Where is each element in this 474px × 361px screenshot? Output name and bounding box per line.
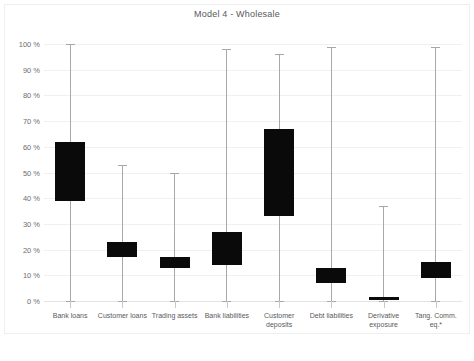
y-axis-tick-label: 40 % (6, 194, 40, 203)
whisker-cap-top (431, 47, 440, 48)
x-axis-tick (122, 301, 123, 308)
y-axis-tick-label: 70 % (6, 117, 40, 126)
whisker-cap-top (118, 165, 127, 166)
bar-group (410, 44, 462, 301)
range-box (421, 262, 451, 277)
bar-group (201, 44, 253, 301)
range-box (55, 142, 85, 201)
whisker-line (383, 206, 384, 301)
bar-group (44, 44, 96, 301)
bar-group (253, 44, 305, 301)
y-axis-tick-label: 10 % (6, 271, 40, 280)
x-axis-tick (331, 301, 332, 308)
bar-group (96, 44, 148, 301)
range-box (107, 242, 137, 257)
x-axis-tick-label: Trading assets (149, 311, 201, 320)
whisker-line (174, 173, 175, 302)
range-box (316, 268, 346, 283)
x-axis-tick-label: Debt liabilities (305, 311, 357, 320)
whisker-line (331, 47, 332, 301)
y-axis-tick-label: 60 % (6, 142, 40, 151)
x-axis-tick-label: Tang. Comm. eq.* (410, 311, 462, 329)
whisker-cap-top (379, 206, 388, 207)
range-box (212, 232, 242, 265)
bar-group (358, 44, 410, 301)
whisker-cap-top (66, 44, 75, 45)
whisker-cap-top (275, 54, 284, 55)
y-axis-tick-label: 80 % (6, 91, 40, 100)
range-box (264, 129, 294, 216)
y-axis-tick-label: 90 % (6, 65, 40, 74)
x-axis-tick-label: Customer loans (96, 311, 148, 320)
whisker-cap-top (222, 49, 231, 50)
whisker-line (122, 165, 123, 301)
x-axis-tick-label: Customer deposits (253, 311, 305, 329)
y-axis-tick-label: 100 % (6, 40, 40, 49)
y-axis: 100 %90 %80 %70 %60 %50 %40 %30 %20 %10 … (0, 44, 40, 301)
x-axis-tick (70, 301, 71, 308)
y-axis-tick-label: 20 % (6, 245, 40, 254)
x-axis-tick (384, 301, 385, 308)
x-axis-tick-label: Bank liabilities (201, 311, 253, 320)
x-axis-tick-label: Derivative exposure (358, 311, 410, 329)
chart-title: Model 4 - Wholesale (0, 9, 474, 19)
whisker-cap-top (170, 173, 179, 174)
whisker-cap-top (327, 47, 336, 48)
bar-group (305, 44, 357, 301)
x-axis-tick (436, 301, 437, 308)
plot-area (44, 44, 462, 301)
x-axis-tick-label: Bank loans (44, 311, 96, 320)
y-axis-tick-label: 50 % (6, 168, 40, 177)
x-axis-tick (279, 301, 280, 308)
chart-figure: Model 4 - Wholesale 100 %90 %80 %70 %60 … (0, 0, 474, 361)
x-axis-tick (175, 301, 176, 308)
range-box (369, 297, 399, 300)
y-axis-tick-label: 30 % (6, 219, 40, 228)
x-axis: Bank loansCustomer loansTrading assetsBa… (44, 301, 462, 351)
range-box (160, 257, 190, 267)
y-axis-tick-label: 0 % (6, 297, 40, 306)
x-axis-tick (227, 301, 228, 308)
bar-group (149, 44, 201, 301)
